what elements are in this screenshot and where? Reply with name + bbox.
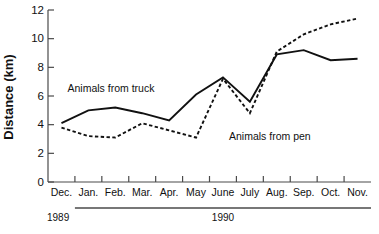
distance-line-chart: Distance (km) 024681012 Dec.Jan.Feb.Mar.… — [0, 0, 379, 234]
y-tick-label: 12 — [31, 4, 44, 16]
x-tick-label-may: May — [186, 186, 207, 198]
x-tick-label-oct: Oct. — [321, 186, 340, 198]
x-tick-group — [75, 176, 344, 182]
x-tick-label-june: June — [212, 186, 235, 198]
x-tick-label-apr: Apr. — [160, 186, 179, 198]
x-axis: Dec.Jan.Feb.Mar.Apr.MayJuneJulyAug.Sep.O… — [48, 176, 371, 198]
y-tick-label: 2 — [38, 147, 44, 159]
x-tick-label-feb: Feb. — [105, 186, 126, 198]
x-tick-label-group: Dec.Jan.Feb.Mar.Apr.MayJuneJulyAug.Sep.O… — [51, 186, 368, 198]
x-tick-label-nov: Nov. — [347, 186, 368, 198]
annotation-animals-from-truck: Animals from truck — [67, 82, 155, 94]
series-line-animals-from-pen — [61, 19, 357, 138]
annotation-animals-from-pen: Animals from pen — [229, 130, 311, 142]
x-tick-label-sep: Sep. — [293, 186, 315, 198]
y-tick-label: 6 — [38, 90, 44, 102]
y-axis: 024681012 — [31, 4, 54, 188]
x-tick-label-dec: Dec. — [51, 186, 73, 198]
chart-container: Distance (km) 024681012 Dec.Jan.Feb.Mar.… — [0, 0, 379, 234]
year-band-group: 19891990 — [47, 208, 371, 223]
y-tick-label: 8 — [38, 61, 44, 73]
series-group — [61, 19, 357, 138]
x-tick-label-july: July — [241, 186, 260, 198]
y-tick-group: 024681012 — [31, 4, 54, 188]
x-tick-label-mar: Mar. — [132, 186, 152, 198]
y-tick-label: 10 — [31, 32, 44, 44]
year-label-1990: 1990 — [212, 212, 235, 223]
y-tick-label: 4 — [38, 118, 45, 130]
annotation-group: Animals from truckAnimals from pen — [67, 82, 310, 142]
year-label-1989: 1989 — [47, 212, 70, 223]
x-tick-label-aug: Aug. — [266, 186, 288, 198]
y-tick-label: 0 — [38, 176, 44, 188]
y-axis-title: Distance (km) — [1, 54, 16, 139]
x-tick-label-jan: Jan. — [78, 186, 98, 198]
